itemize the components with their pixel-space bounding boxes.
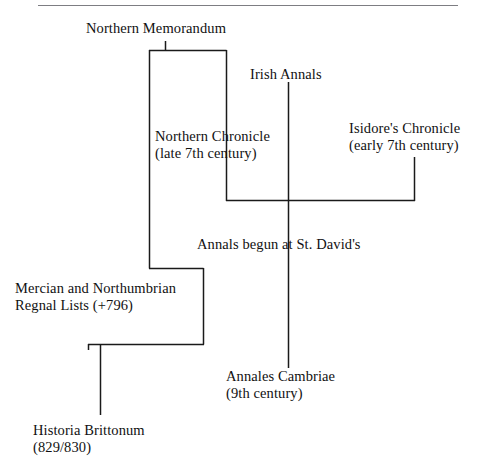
node-label-line: Historia Brittonum bbox=[33, 422, 145, 439]
node-label-subline: (829/830) bbox=[33, 439, 145, 456]
node-annals-begun-at-st-davids: Annals begun at St. David's bbox=[197, 236, 361, 253]
node-label-line: Northern Memorandum bbox=[86, 20, 226, 37]
node-label-line: Northern Chronicle bbox=[155, 128, 270, 145]
node-isidores-chronicle: Isidore's Chronicle (early 7th century) bbox=[349, 120, 460, 154]
node-label-line: Annales Cambriae bbox=[226, 368, 335, 385]
node-northern-chronicle: Northern Chronicle (late 7th century) bbox=[155, 128, 270, 162]
node-label-line: Mercian and Northumbrian bbox=[15, 280, 176, 297]
node-label-subline: (9th century) bbox=[226, 385, 335, 402]
node-label-line: Irish Annals bbox=[250, 66, 322, 83]
node-irish-annals: Irish Annals bbox=[250, 66, 322, 83]
node-label-line: Annals begun at St. David's bbox=[197, 236, 361, 253]
node-northern-memorandum: Northern Memorandum bbox=[86, 20, 226, 37]
node-label-subline: (early 7th century) bbox=[349, 137, 460, 154]
node-historia-brittonum: Historia Brittonum (829/830) bbox=[33, 422, 145, 456]
diagram-canvas: Northern Memorandum Irish Annals Norther… bbox=[0, 0, 492, 475]
node-label-subline: (late 7th century) bbox=[155, 145, 270, 162]
node-mercian-and-northumbrian-regnal-lists: Mercian and Northumbrian Regnal Lists (+… bbox=[15, 280, 176, 314]
node-label-subline: Regnal Lists (+796) bbox=[15, 297, 176, 314]
node-annales-cambriae: Annales Cambriae (9th century) bbox=[226, 368, 335, 402]
node-label-line: Isidore's Chronicle bbox=[349, 120, 460, 137]
